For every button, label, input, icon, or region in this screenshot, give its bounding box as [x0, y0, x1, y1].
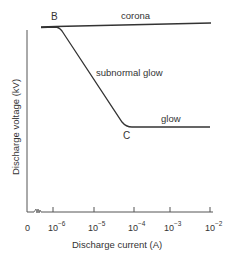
glow-label: glow [161, 113, 181, 124]
point-b-label: B [51, 11, 58, 22]
tick-label-0: 0 [25, 223, 30, 233]
x-axis-title: Discharge current (A) [72, 239, 162, 250]
svg-text:−6: −6 [58, 220, 66, 227]
corona-curve [41, 23, 211, 27]
subnormal-glow-label: subnormal glow [96, 67, 163, 78]
svg-text:−3: −3 [174, 220, 182, 227]
tick-label-1e-3: 10 −3 [164, 220, 182, 233]
tick-label-1e-5: 10 −5 [88, 220, 106, 233]
tick-label-1e-4: 10 −4 [128, 220, 146, 233]
svg-text:10: 10 [88, 223, 98, 233]
svg-text:10: 10 [164, 223, 174, 233]
svg-text:10: 10 [205, 223, 215, 233]
svg-text:−2: −2 [215, 220, 223, 227]
axis-break-icon [34, 209, 41, 213]
discharge-characteristic-diagram: B corona subnormal glow glow C 0 10 −6 1… [0, 0, 235, 256]
point-c-label: C [123, 130, 130, 141]
svg-text:−4: −4 [138, 220, 146, 227]
svg-text:10: 10 [128, 223, 138, 233]
tick-label-1e-6: 10 −6 [48, 220, 66, 233]
tick-label-1e-2: 10 −2 [205, 220, 223, 233]
svg-text:10: 10 [48, 223, 58, 233]
corona-label: corona [121, 10, 151, 21]
svg-text:−5: −5 [98, 220, 106, 227]
y-axis-title: Discharge voltage (kV) [10, 79, 21, 175]
